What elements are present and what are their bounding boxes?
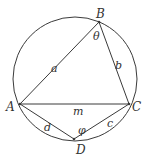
side-label-m: m: [73, 105, 83, 118]
cyclic-quadrilateral-diagram: B A C D a b m d c θ φ: [0, 0, 146, 162]
angle-label-theta: θ: [93, 30, 100, 43]
vertex-label-a: A: [5, 100, 15, 114]
vertex-label-c: C: [132, 100, 141, 114]
vertex-a-dot: [19, 103, 22, 106]
vertex-c-dot: [128, 103, 131, 106]
side-label-c: c: [107, 117, 113, 130]
circumcircle: [13, 17, 137, 141]
vertex-d-dot: [73, 138, 76, 141]
side-label-d: d: [44, 121, 51, 134]
vertex-b-dot: [98, 21, 101, 24]
vertex-label-b: B: [95, 7, 105, 21]
side-label-a: a: [51, 62, 58, 75]
vertex-label-d: D: [75, 143, 86, 157]
side-label-b: b: [115, 59, 122, 72]
angle-label-phi: φ: [78, 124, 86, 137]
side-b: [99, 22, 129, 104]
